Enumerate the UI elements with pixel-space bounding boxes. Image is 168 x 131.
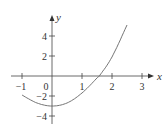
x-axis-label: x xyxy=(156,70,162,82)
y-axis-arrow-icon xyxy=(50,15,55,21)
x-tick-label: 1 xyxy=(80,81,85,92)
y-tick-label: −4 xyxy=(36,111,47,122)
y-tick-label: 2 xyxy=(42,51,47,62)
y-tick-label: 4 xyxy=(42,31,47,42)
x-tick-label: 3 xyxy=(140,81,145,92)
y-tick-label: −2 xyxy=(36,91,47,102)
x-tick-label: −1 xyxy=(16,81,27,92)
chart: −1 0 1 2 3 4 2 −2 −4 x y xyxy=(0,0,168,131)
y-axis-label: y xyxy=(55,11,61,23)
x-tick-label: 2 xyxy=(110,81,115,92)
x-axis-arrow-icon xyxy=(148,74,154,79)
